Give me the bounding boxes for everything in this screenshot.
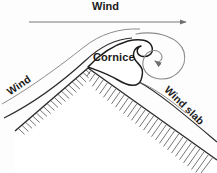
label-wind-top: Wind (92, 1, 119, 12)
label-cornice: Cornice (93, 52, 135, 63)
terrain-fill (15, 68, 217, 173)
diagram-canvas (0, 0, 217, 173)
cornice-wind-slab-diagram: Wind Cornice Wind Wind slab (0, 0, 217, 173)
mountain-ridge (15, 68, 217, 173)
